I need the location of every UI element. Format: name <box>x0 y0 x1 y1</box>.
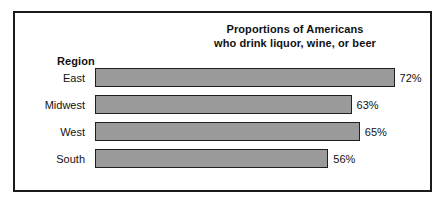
bar-track-east: 72% <box>95 68 426 89</box>
chart-plot-area: Region Proportions of Americans who drin… <box>15 13 430 190</box>
bar-rows: East 72% Midwest 63% West 65% <box>15 68 430 176</box>
bar-west <box>95 122 360 141</box>
bar-value-label-west: 65% <box>365 125 387 139</box>
bar-track-south: 56% <box>95 149 426 170</box>
bar-value-label-east: 72% <box>400 71 422 85</box>
bar-row-west: West 65% <box>15 122 430 149</box>
bar-category-label-midwest: Midwest <box>15 98 85 112</box>
bar-category-label-west: West <box>15 125 85 139</box>
bar-category-label-east: East <box>15 71 85 85</box>
chart-title-line-2: who drink liquor, wine, or beer <box>165 36 425 50</box>
chart-title: Proportions of Americans who drink liquo… <box>165 22 425 50</box>
chart-title-line-1: Proportions of Americans <box>165 22 425 36</box>
bar-track-west: 65% <box>95 122 426 143</box>
bar-row-east: East 72% <box>15 68 430 95</box>
bar-value-label-south: 56% <box>333 152 355 166</box>
region-column-header: Region <box>57 55 95 67</box>
bar-category-label-south: South <box>15 152 85 166</box>
bar-value-label-midwest: 63% <box>357 98 379 112</box>
chart-figure: Region Proportions of Americans who drin… <box>13 11 432 192</box>
bar-row-south: South 56% <box>15 149 430 176</box>
bar-south <box>95 149 328 168</box>
bar-east <box>95 68 395 87</box>
bar-midwest <box>95 95 352 114</box>
bar-row-midwest: Midwest 63% <box>15 95 430 122</box>
bar-track-midwest: 63% <box>95 95 426 116</box>
